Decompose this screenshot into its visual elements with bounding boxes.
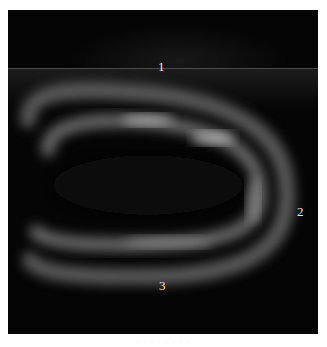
figure-caption: · · · · · · · · bbox=[0, 336, 327, 346]
label-1: 1 bbox=[158, 60, 165, 73]
label-3: 3 bbox=[159, 279, 166, 292]
label-2: 2 bbox=[297, 205, 304, 218]
